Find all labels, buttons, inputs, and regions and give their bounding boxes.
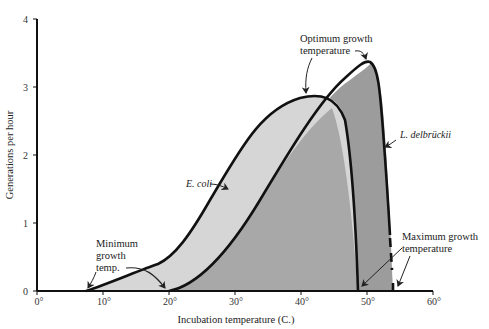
ecoli-label: E. coli — [185, 178, 212, 189]
optimum-label-line1: Optimum growth — [300, 33, 373, 44]
y-tick-1: 1 — [23, 218, 28, 229]
y-tick-3: 3 — [23, 82, 28, 93]
x-tick-10: 10° — [97, 296, 111, 307]
x-tick-30: 30° — [229, 296, 243, 307]
maximum-label-line1: Maximum growth — [402, 231, 479, 242]
x-tick-0: 0° — [35, 296, 44, 307]
x-tick-20: 20° — [163, 296, 177, 307]
x-axis-title: Incubation temperature (C.) — [178, 314, 295, 326]
optimum-arrow-ecoli — [306, 58, 312, 93]
y-tick-4: 4 — [23, 14, 28, 25]
ldelbrueckii-label: L. delbrückii — [399, 129, 451, 140]
y-axis-title: Generations per hour — [4, 110, 15, 199]
minimum-label-line3: temp. — [96, 262, 120, 273]
ldelbrueckii-arrow — [385, 140, 396, 147]
x-tick-40: 40° — [295, 296, 309, 307]
optimum-label-line2: temperature — [300, 45, 350, 56]
x-tick-50: 50° — [361, 296, 375, 307]
growth-temperature-chart: 0 1 2 3 4 0° 10° 20° 30° 40° 50° 60° Inc… — [0, 0, 489, 329]
y-tick-0: 0 — [23, 286, 28, 297]
minimum-label-line2: growth — [96, 250, 126, 261]
maximum-label-line2: temperature — [402, 243, 452, 254]
optimum-arrow-ldel — [355, 51, 366, 59]
x-tick-60: 60° — [427, 296, 441, 307]
maximum-arrow-ldel — [398, 256, 410, 286]
minimum-arrow-1 — [88, 272, 96, 288]
y-tick-2: 2 — [23, 150, 28, 161]
minimum-label-line1: Minimum — [96, 238, 138, 249]
